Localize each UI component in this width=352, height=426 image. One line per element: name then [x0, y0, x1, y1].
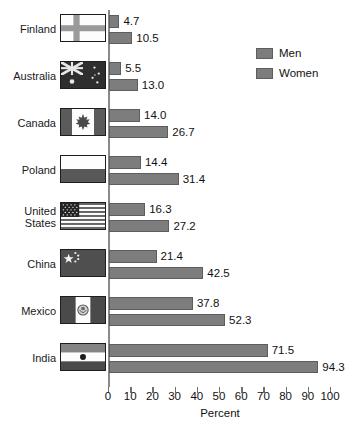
- chart-row-poland: Poland 14.431.4: [0, 153, 352, 197]
- bar-men: [109, 15, 119, 28]
- bar-women: [109, 267, 203, 280]
- country-label: Finland: [0, 23, 56, 36]
- country-label: Australia: [0, 70, 56, 83]
- bar-women: [109, 32, 132, 45]
- bar-men: [109, 62, 121, 75]
- bar-men: [109, 109, 140, 122]
- bar-women: [109, 361, 318, 374]
- x-tick-label: 100: [315, 390, 345, 403]
- bar-men: [109, 344, 268, 357]
- flag-finland-icon: [60, 14, 106, 42]
- country-label: India: [0, 352, 56, 365]
- bar-value-women: 13.0: [142, 79, 164, 92]
- bar-value-men: 16.3: [149, 203, 171, 216]
- bar-value-women: 27.2: [173, 220, 195, 233]
- bar-women: [109, 126, 168, 139]
- legend-label: Women: [279, 66, 318, 81]
- chart-row-mexico: Mexico 37.852.3: [0, 294, 352, 338]
- bar-value-women: 10.5: [136, 32, 158, 45]
- bar-value-men: 21.4: [161, 250, 183, 263]
- legend-swatch: [256, 68, 273, 79]
- bar-value-women: 42.5: [207, 267, 229, 280]
- flag-india-icon: [60, 343, 106, 371]
- bar-men: [109, 156, 141, 169]
- country-label-line2: States: [0, 217, 56, 230]
- bar-value-men: 37.8: [197, 297, 219, 310]
- flag-poland-icon: [60, 155, 106, 183]
- flag-australia-icon: [60, 61, 106, 89]
- bar-women: [109, 220, 169, 233]
- bar-women: [109, 314, 225, 327]
- bar-value-women: 94.3: [322, 361, 344, 374]
- legend-label: Men: [279, 46, 301, 61]
- bar-value-men: 5.5: [125, 62, 141, 75]
- chart-row-canada: Canada 14.026.7: [0, 106, 352, 150]
- chart-row-india: India 71.594.3: [0, 341, 352, 385]
- bar-men: [109, 297, 193, 310]
- chart-row-united-states: UnitedStates 16.327.2: [0, 200, 352, 244]
- country-label: Poland: [0, 164, 56, 177]
- bar-chart: Finland 4.710.5Australia 5.513.0Canada 1…: [0, 0, 352, 426]
- bar-value-men: 4.7: [123, 15, 139, 28]
- country-label: Canada: [0, 117, 56, 130]
- bar-men: [109, 250, 157, 263]
- bar-women: [109, 173, 179, 186]
- flag-united-states-icon: [60, 202, 106, 230]
- flag-mexico-icon: [60, 296, 106, 324]
- country-label: UnitedStates: [0, 205, 56, 230]
- bar-value-men: 14.0: [144, 109, 166, 122]
- flag-china-icon: [60, 249, 106, 277]
- bar-value-women: 52.3: [229, 314, 251, 327]
- x-axis-title: Percent: [108, 407, 332, 419]
- bar-men: [109, 203, 145, 216]
- chart-row-china: China 21.442.5: [0, 247, 352, 291]
- legend-swatch: [256, 48, 273, 59]
- flag-canada-icon: [60, 108, 106, 136]
- bar-value-men: 14.4: [145, 156, 167, 169]
- country-label: Mexico: [0, 305, 56, 318]
- bar-value-men: 71.5: [272, 344, 294, 357]
- bar-value-women: 31.4: [183, 173, 205, 186]
- country-label: China: [0, 258, 56, 271]
- bar-women: [109, 79, 138, 92]
- bar-value-women: 26.7: [172, 126, 194, 139]
